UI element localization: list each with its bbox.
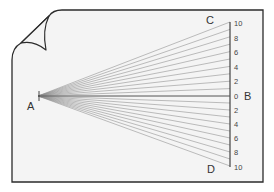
tick-label-top-6: 6 (234, 48, 238, 57)
tick-label-0: 0 (234, 92, 238, 101)
fan-diagram: A B C D 10 8 6 4 2 0 2 4 6 8 10 (0, 0, 274, 192)
tick-label-bottom-6: 6 (234, 134, 238, 143)
tick-label-bottom-8: 8 (234, 148, 238, 157)
tick-label-top-2: 2 (234, 77, 238, 86)
tick-label-bottom-4: 4 (234, 120, 238, 129)
label-b: B (244, 90, 251, 102)
tick-label-bottom-10: 10 (234, 163, 242, 172)
label-d: D (207, 163, 215, 175)
tick-label-bottom-2: 2 (234, 106, 238, 115)
tick-label-top-8: 8 (234, 34, 238, 43)
label-a: A (27, 100, 35, 112)
tick-label-top-4: 4 (234, 63, 238, 72)
tick-label-top-10: 10 (234, 19, 242, 28)
label-c: C (206, 14, 214, 26)
